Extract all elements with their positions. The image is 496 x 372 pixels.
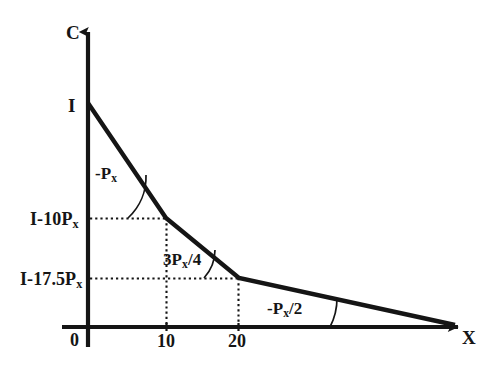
x-tick-label-20: 20 <box>228 332 246 350</box>
y-value-label-1-subscript: x <box>73 217 79 231</box>
origin-label: 0 <box>70 331 79 349</box>
y-value-label-2-text: I-17.5P <box>20 269 76 289</box>
y-value-label-i-minus-17-5px: I-17.5Px <box>20 270 82 291</box>
slope-annotation-segment-1: -Px <box>95 165 117 185</box>
x-tick-label-10: 10 <box>157 332 175 350</box>
slope-2-text: 3P <box>163 250 182 269</box>
slope-1-text: -P <box>95 164 111 183</box>
budget-constraint-chart <box>0 0 496 372</box>
y-value-label-i-minus-10px: I-10Px <box>30 210 79 231</box>
y-intercept-label: I <box>68 96 76 115</box>
slope-2-suffix: /4 <box>188 250 201 269</box>
slope-annotation-segment-3: -Px/2 <box>267 300 302 320</box>
y-axis-label: C <box>66 23 80 42</box>
y-value-label-1-text: I-10P <box>30 209 73 229</box>
y-value-label-2-subscript: x <box>76 277 82 291</box>
slope-3-suffix: /2 <box>289 299 302 318</box>
slope-1-subscript: x <box>111 172 117 185</box>
budget-constraint-line <box>88 103 455 325</box>
slope-annotation-segment-2: 3Px/4 <box>163 251 201 271</box>
figure-canvas: C X I 0 10 20 I-10Px I-17.5Px -Px 3Px/4 … <box>0 0 496 372</box>
x-axis-label: X <box>462 328 476 347</box>
slope-3-text: -P <box>267 299 283 318</box>
angle-arc-segment-3 <box>330 298 337 327</box>
